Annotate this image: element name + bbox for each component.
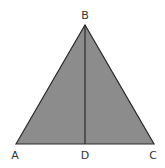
label-c: C: [149, 149, 157, 162]
label-b: B: [81, 9, 89, 22]
label-a: A: [11, 149, 19, 162]
label-d: D: [81, 149, 89, 162]
diagram-canvas: B A D C: [0, 0, 165, 168]
triangle-diagram: B A D C: [0, 0, 165, 168]
